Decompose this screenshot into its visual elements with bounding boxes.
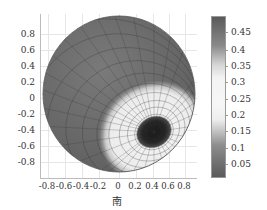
y-tick-label: 0.4 [5, 62, 35, 71]
colorbar-tick-label: 0.25 [231, 95, 251, 104]
y-tick-label: -0.8 [5, 158, 35, 167]
y-tick-label: 0.6 [5, 46, 35, 55]
colorbar-tick [225, 82, 228, 83]
colorbar-tick [225, 32, 228, 33]
y-tick-label: -0.6 [5, 142, 35, 151]
colorbar-tick-label: 0.35 [231, 62, 251, 71]
colorbar [211, 16, 226, 178]
y-tick-label: 0.8 [5, 30, 35, 39]
y-tick-label: 0 [5, 94, 35, 103]
colorbar-tick [225, 115, 228, 116]
colorbar-tick [225, 50, 228, 51]
x-tick-label: -0.2 [87, 182, 109, 191]
colorbar-tick [225, 66, 228, 67]
colorbar-tick-label: 0.2 [231, 111, 245, 120]
y-tick-label: 0.2 [5, 78, 35, 87]
colorbar-tick [225, 131, 228, 132]
colorbar-tick [225, 99, 228, 100]
colorbar-tick-label: 0.15 [231, 127, 251, 136]
colorbar-tick [225, 148, 228, 149]
x-axis-label: 南 [112, 193, 122, 208]
plot-axes [40, 14, 197, 179]
colorbar-tick-label: 0.45 [231, 28, 251, 37]
colorbar-tick [225, 164, 228, 165]
y-tick-label: -0.2 [5, 110, 35, 119]
colorbar-tick-label: 0.3 [231, 78, 245, 87]
colorbar-tick-label: 0.1 [231, 144, 245, 153]
x-tick-label: 0.8 [173, 182, 195, 191]
sphere-surface [41, 14, 197, 178]
colorbar-tick-label: 0.05 [231, 160, 251, 169]
colorbar-tick-label: 0.4 [231, 46, 245, 55]
y-tick-label: -0.4 [5, 126, 35, 135]
